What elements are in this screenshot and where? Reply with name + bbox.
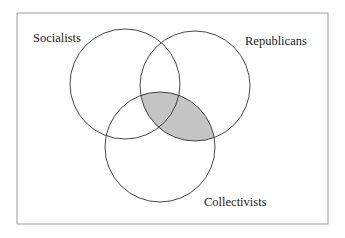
- venn-diagram: Socialists Republicans Collectivists: [0, 0, 345, 238]
- shaded-intersection-republicans-collectivists: [105, 92, 215, 202]
- label-republicans: Republicans: [245, 34, 307, 48]
- label-collectivists: Collectivists: [204, 195, 267, 209]
- label-socialists: Socialists: [33, 31, 81, 45]
